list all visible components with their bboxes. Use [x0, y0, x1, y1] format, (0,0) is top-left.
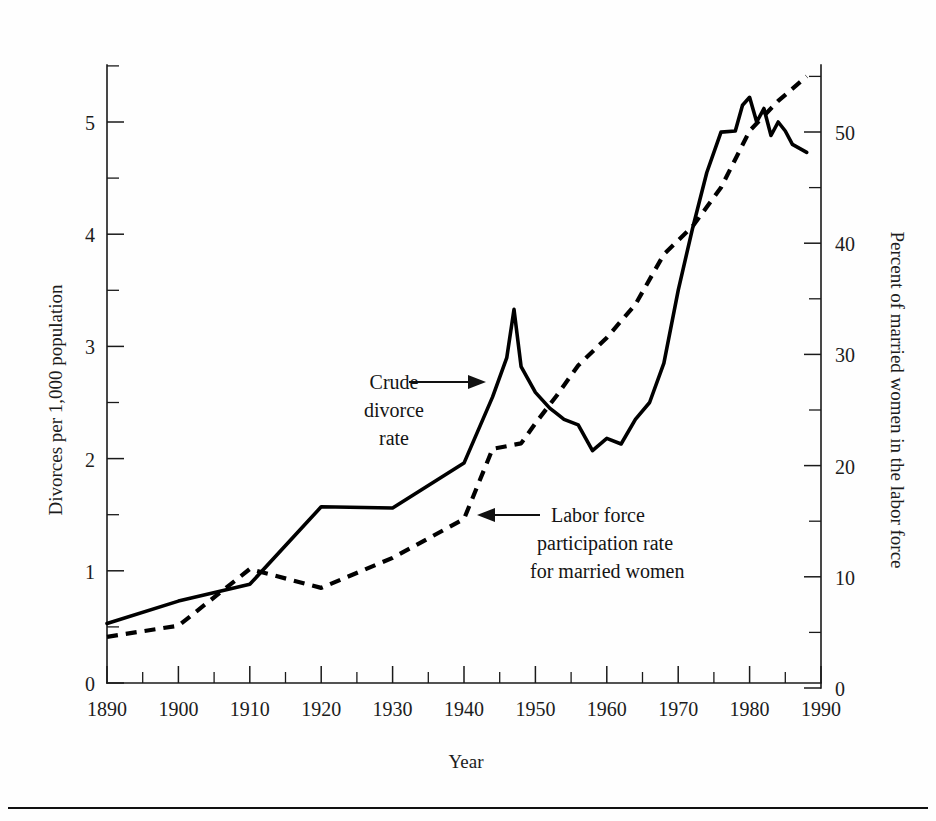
right-axis-tick-label: 30	[835, 344, 855, 366]
x-axis-tick-label: 1940	[444, 698, 484, 720]
right-axis-tick-label: 40	[835, 233, 855, 255]
x-axis: 1890190019101920193019401950196019701980…	[87, 666, 841, 720]
annotation-crude-divorce-rate: Crude divorce rate	[364, 371, 486, 449]
right-axis: 01020304050	[804, 65, 855, 700]
x-axis-tick-label: 1960	[587, 698, 627, 720]
series-line-labor-force-participation	[107, 76, 807, 636]
left-axis: 012345	[85, 65, 124, 695]
x-axis-tick-label: 1980	[730, 698, 770, 720]
x-axis-title: Year	[448, 751, 484, 772]
x-axis-tick-label: 1950	[515, 698, 555, 720]
left-axis-title: Divorces per 1,000 population	[45, 284, 66, 516]
left-axis-tick-label: 3	[85, 336, 95, 358]
data-series	[107, 76, 807, 636]
annotation-labor-line-2: participation rate	[537, 532, 673, 555]
left-axis-tick-label: 5	[85, 112, 95, 134]
annotation-labor-arrow-head	[477, 508, 495, 522]
x-axis-tick-label: 1900	[158, 698, 198, 720]
x-axis-tick-label: 1890	[87, 698, 127, 720]
x-axis-tick-label: 1930	[373, 698, 413, 720]
x-axis-tick-label: 1970	[658, 698, 698, 720]
x-axis-tick-label: 1920	[301, 698, 341, 720]
right-axis-tick-label: 0	[835, 678, 845, 700]
annotation-crude-line-3: rate	[379, 427, 409, 449]
annotation-labor-line-1: Labor force	[551, 504, 645, 526]
divorce-and-labor-force-chart: 012345 01020304050 189019001910192019301…	[0, 0, 936, 821]
figure-container: 012345 01020304050 189019001910192019301…	[0, 0, 936, 821]
right-axis-title: Percent of married women in the labor fo…	[887, 231, 908, 568]
annotation-crude-arrow-head	[468, 375, 486, 389]
x-axis-tick-label: 1990	[801, 698, 841, 720]
right-axis-tick-label: 50	[835, 122, 855, 144]
right-axis-tick-label: 10	[835, 567, 855, 589]
left-axis-tick-label: 2	[85, 449, 95, 471]
left-axis-tick-label: 0	[85, 673, 95, 695]
x-axis-tick-label: 1910	[230, 698, 270, 720]
annotation-crude-line-2: divorce	[364, 399, 424, 421]
annotation-labor-force-rate: Labor force participation rate for marri…	[477, 504, 684, 582]
left-axis-tick-label: 1	[85, 561, 95, 583]
annotation-labor-line-3: for married women	[530, 560, 684, 582]
footer-rule	[8, 807, 928, 809]
right-axis-tick-label: 20	[835, 456, 855, 478]
series-line-crude-divorce-rate	[107, 97, 807, 623]
left-axis-tick-label: 4	[85, 224, 95, 246]
